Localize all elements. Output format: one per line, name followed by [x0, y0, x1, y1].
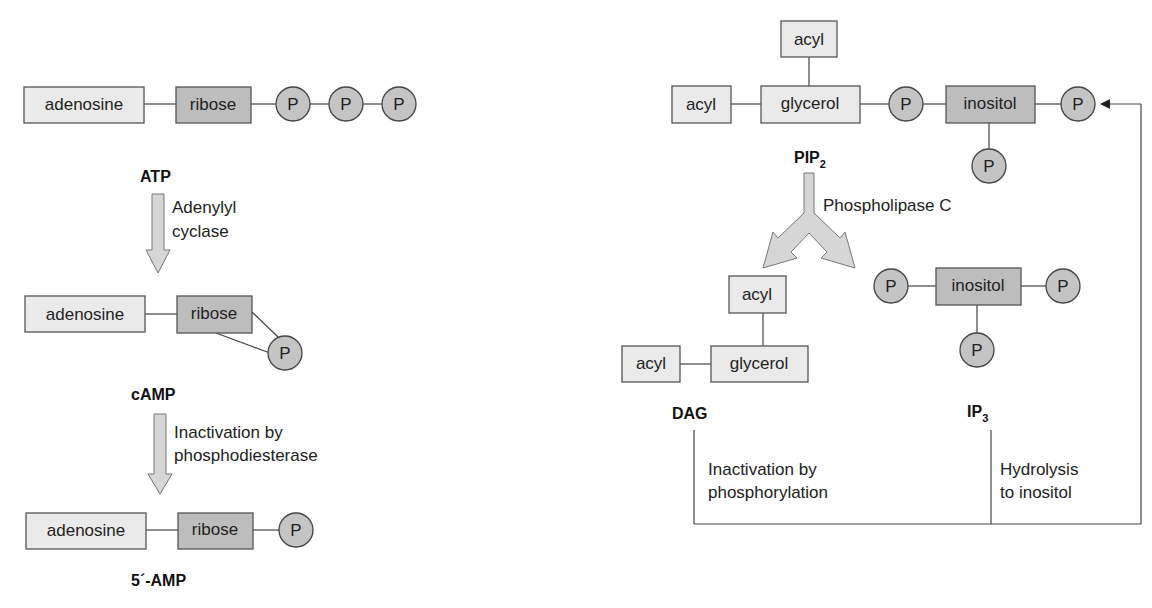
ip3-fate-line2: to inositol — [1000, 483, 1072, 502]
phosphate-label: P — [971, 341, 982, 360]
ribose-label: ribose — [192, 520, 238, 539]
dag-molecule: acyl acyl glycerol — [622, 276, 808, 382]
phosphate-label: P — [1072, 95, 1083, 114]
acyl-label: acyl — [686, 95, 716, 114]
acyl-label: acyl — [636, 354, 666, 373]
step2-line1: Inactivation by — [174, 423, 283, 442]
dag-fate-line2: phosphorylation — [708, 483, 828, 502]
atp-molecule: adenosine ribose P P P — [24, 87, 416, 123]
phosphate-label: P — [287, 95, 298, 114]
phosphate-label: P — [393, 95, 404, 114]
glycerol-label: glycerol — [730, 354, 789, 373]
enzyme-label: Phospholipase C — [823, 196, 952, 215]
phosphate-label: P — [340, 95, 351, 114]
pip2-molecule: acyl acyl glycerol P inositol P P — [672, 21, 1095, 183]
glycerol-label: glycerol — [781, 94, 840, 113]
dag-fate-line1: Inactivation by — [708, 460, 817, 479]
acyl-label: acyl — [742, 285, 772, 304]
camp-molecule: adenosine ribose P — [25, 296, 302, 370]
ip3-fate-line1: Hydrolysis — [1000, 460, 1078, 479]
phosphate-label: P — [290, 521, 301, 540]
camp-label: cAMP — [131, 386, 176, 403]
inositol-label: inositol — [964, 94, 1017, 113]
amp-molecule: adenosine ribose P — [26, 513, 313, 549]
atp-label: ATP — [140, 168, 171, 185]
pip2-label: PIP2 — [794, 149, 826, 170]
adenosine-label: adenosine — [47, 521, 125, 540]
adenosine-label: adenosine — [46, 305, 124, 324]
down-arrow-icon — [146, 194, 170, 273]
phosphate-label: P — [983, 157, 994, 176]
adenosine-label: adenosine — [45, 95, 123, 114]
ribose-label: ribose — [190, 95, 236, 114]
phosphate-label: P — [1057, 277, 1068, 296]
acyl-label: acyl — [794, 30, 824, 49]
ip3-molecule: P inositol P P — [874, 268, 1080, 367]
phosphate-label: P — [900, 95, 911, 114]
split-arrow-icon — [763, 173, 855, 268]
down-arrow-icon — [148, 414, 172, 494]
phosphate-label: P — [279, 344, 290, 363]
dag-label: DAG — [672, 405, 708, 422]
step1-line2: cyclase — [172, 222, 229, 241]
phosphate-label: P — [885, 277, 896, 296]
arrowhead-icon — [1100, 99, 1110, 109]
step1-line1: Adenylyl — [172, 198, 236, 217]
signaling-diagram: adenosine ribose P P P ATP Adenylyl cycl… — [0, 0, 1152, 608]
inositol-label: inositol — [952, 276, 1005, 295]
step2-line2: phosphodiesterase — [174, 446, 318, 465]
amp-label: 5´-AMP — [131, 572, 186, 589]
ribose-label: ribose — [191, 304, 237, 323]
ip3-label: IP3 — [967, 403, 988, 424]
